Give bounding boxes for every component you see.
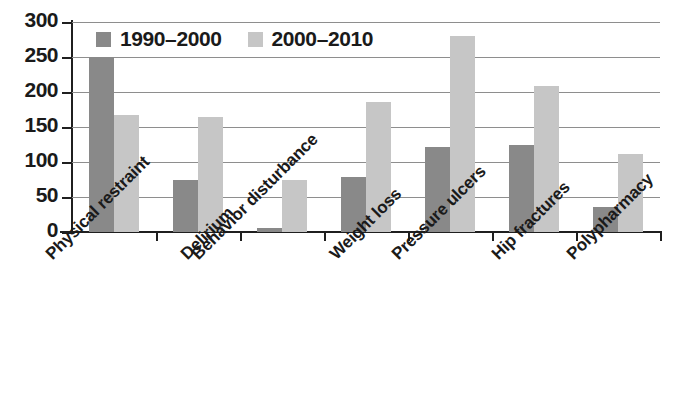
y-tick-label-250: 250 <box>24 43 58 67</box>
x-tick-1 <box>156 232 158 241</box>
y-tick-label-200: 200 <box>24 78 58 102</box>
plot-area <box>72 22 660 232</box>
legend-label-1990-2000: 1990–2000 <box>120 27 222 51</box>
legend-item-1990-2000[interactable]: 1990–2000 <box>96 27 222 51</box>
x-tick-7 <box>660 232 662 241</box>
y-tick-100 <box>62 162 72 164</box>
y-tick-300 <box>62 22 72 24</box>
legend-swatch-icon-1990-2000 <box>96 32 111 47</box>
bar[interactable] <box>257 228 282 232</box>
chart-legend: 1990–2000 2000–2010 <box>96 27 373 51</box>
y-axis-labels: 050100150200250300 <box>0 0 66 410</box>
y-tick-250 <box>62 57 72 59</box>
x-tick-5 <box>492 232 494 241</box>
legend-swatch-icon-2000-2010 <box>248 32 263 47</box>
y-tick-50 <box>62 197 72 199</box>
bar[interactable] <box>282 180 307 233</box>
bar[interactable] <box>173 180 198 233</box>
x-tick-3 <box>324 232 326 241</box>
y-tick-label-300: 300 <box>24 8 58 32</box>
y-tick-label-150: 150 <box>24 113 58 137</box>
y-tick-150 <box>62 127 72 129</box>
legend-item-2000-2010[interactable]: 2000–2010 <box>248 27 374 51</box>
x-tick-2 <box>240 232 242 241</box>
bar-chart: 050100150200250300 1990–2000 2000–2010 P… <box>0 0 675 410</box>
y-tick-label-50: 50 <box>36 183 58 207</box>
bar-group <box>173 22 223 232</box>
y-tick-200 <box>62 92 72 94</box>
legend-label-2000-2010: 2000–2010 <box>272 27 374 51</box>
y-tick-label-100: 100 <box>24 148 58 172</box>
